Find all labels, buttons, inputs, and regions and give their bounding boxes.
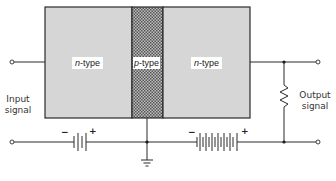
input-terminal-bottom [10, 140, 14, 144]
transistor-circuit-diagram [0, 0, 336, 181]
n-type-suffix: -type [80, 58, 100, 68]
input-signal-label: Input signal [3, 94, 33, 116]
n-type-label-left: n-type [72, 57, 103, 69]
junction-dot-output-bottom [282, 140, 285, 143]
input-label-line1: Input [3, 94, 33, 105]
n-type-label-right: n-type [191, 57, 222, 69]
resistor-icon [280, 85, 288, 107]
collector-battery-icon [197, 133, 237, 151]
emitter-battery-positive-sign: + [89, 127, 97, 136]
output-terminal-top [316, 60, 320, 64]
emitter-battery-icon [74, 133, 86, 151]
collector-battery-negative-sign: − [188, 128, 196, 137]
junction-dot-base [145, 140, 148, 143]
ground-icon [141, 160, 153, 166]
output-label-line2: signal [296, 101, 334, 112]
collector-battery-positive-sign: + [241, 127, 249, 136]
n-type-suffix-right: -type [199, 58, 219, 68]
p-type-label: p-type [133, 57, 160, 69]
p-type-suffix: -type [139, 58, 159, 68]
output-signal-label: Output signal [296, 90, 334, 112]
emitter-battery-negative-sign: − [61, 128, 69, 137]
input-label-line2: signal [3, 105, 33, 116]
output-terminal-bottom [316, 140, 320, 144]
input-terminal-top [10, 60, 14, 64]
output-label-line1: Output [296, 90, 334, 101]
junction-dot-output-top [282, 60, 285, 63]
